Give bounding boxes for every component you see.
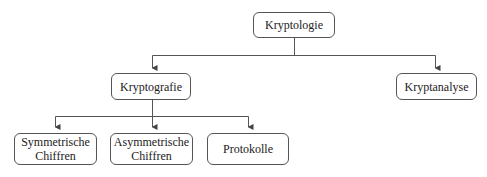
- node-label-kryptanalyse: Kryptanalyse: [405, 80, 469, 94]
- node-label-protokolle: Protokolle: [223, 142, 273, 156]
- node-label-kryptografie: Kryptografie: [120, 80, 182, 94]
- node-symmetrische-chiffren: Symmetrische Chiffren: [14, 133, 97, 165]
- edge-kryptologie-children: [153, 38, 436, 68]
- node-label-symmetrische-chiffren: Symmetrische Chiffren: [21, 135, 90, 163]
- edge-kryptografie-children: [56, 100, 249, 127]
- node-label-asymmetrische-chiffren: Asymmetrische Chiffren: [114, 135, 189, 163]
- node-protokolle: Protokolle: [207, 133, 289, 165]
- node-asymmetrische-chiffren: Asymmetrische Chiffren: [110, 133, 193, 165]
- node-label-kryptologie: Kryptologie: [265, 18, 323, 32]
- node-kryptografie: Kryptografie: [111, 73, 191, 100]
- node-kryptanalyse: Kryptanalyse: [396, 73, 477, 100]
- node-kryptologie: Kryptologie: [253, 12, 335, 38]
